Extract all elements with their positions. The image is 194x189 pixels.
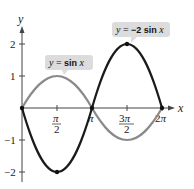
svg-text:2: 2 — [54, 123, 60, 135]
x-axis-label: x — [177, 101, 184, 115]
axes — [20, 26, 176, 182]
y-tick-2: 2 — [10, 38, 16, 50]
y-axis-label: y — [17, 12, 24, 26]
svg-text:y = sin x: y = sin x — [48, 57, 85, 68]
y-tick-1: 1 — [10, 70, 16, 82]
y-tick-neg2: −2 — [4, 166, 16, 178]
y-tick-neg1: −1 — [4, 134, 16, 146]
chart-canvas: y x 2 1 −1 −2 π 2 π 3π 2 2π — [0, 0, 194, 189]
svg-text:y = −2 sin x: y = −2 sin x — [115, 24, 164, 35]
svg-text:2: 2 — [124, 123, 130, 135]
label-sin-x: y = sin x — [45, 55, 93, 75]
label-neg2-sin-x: y = −2 sin x — [112, 22, 170, 43]
